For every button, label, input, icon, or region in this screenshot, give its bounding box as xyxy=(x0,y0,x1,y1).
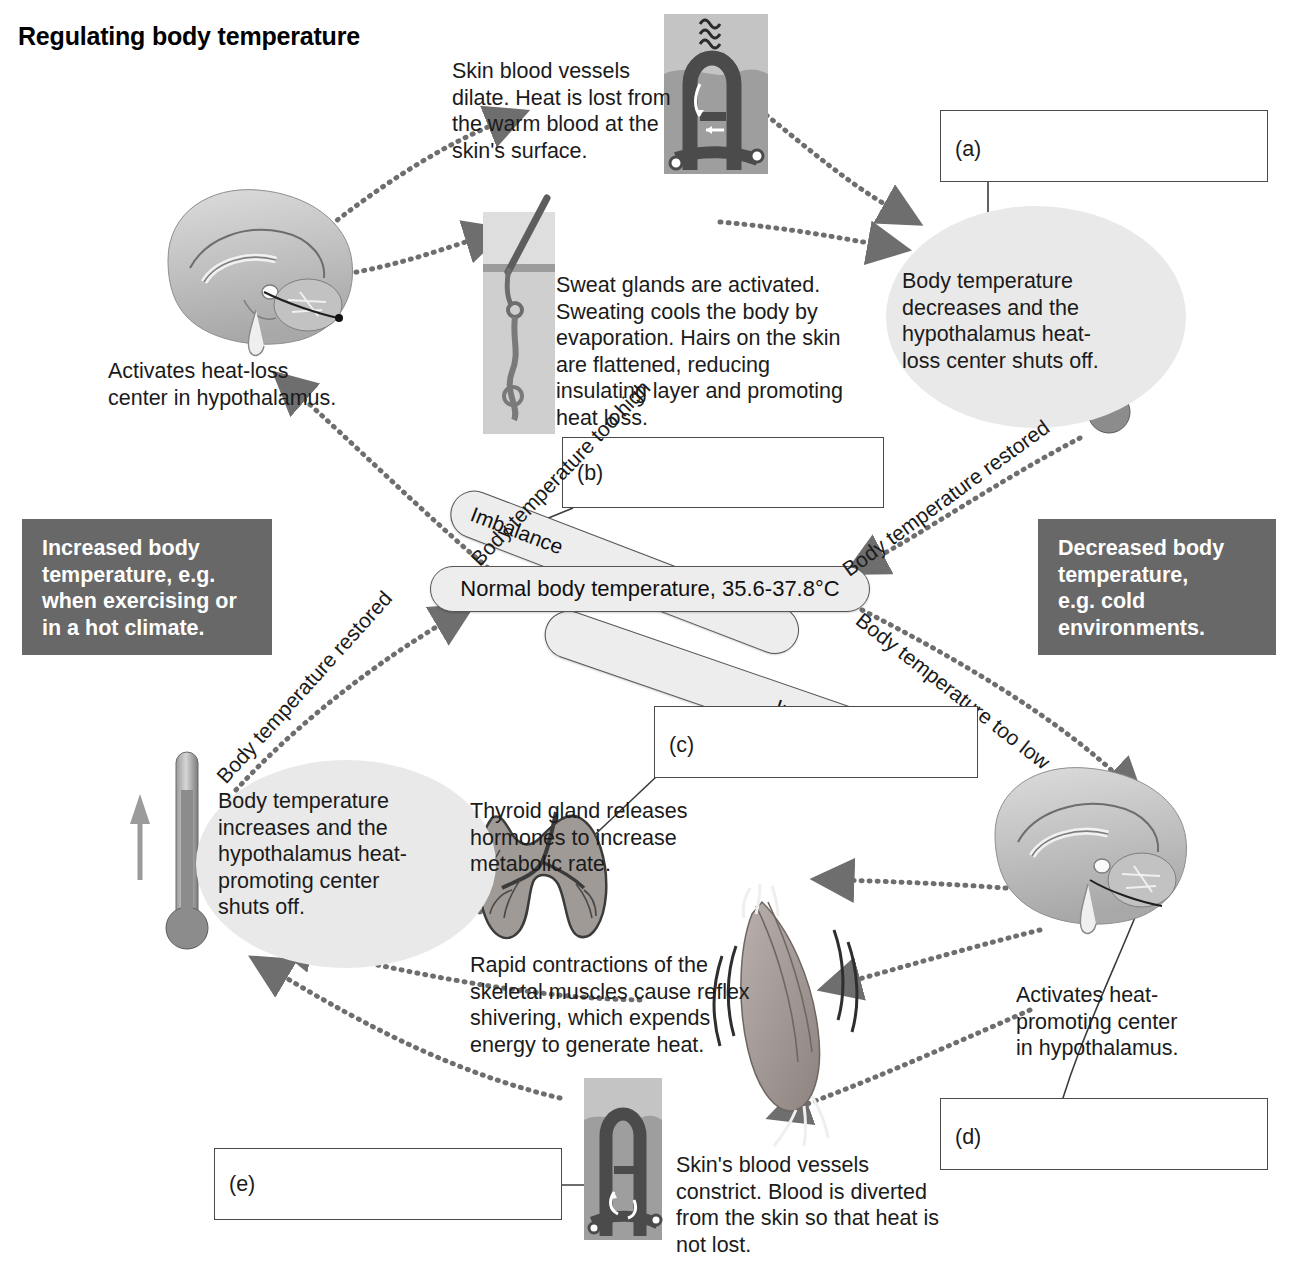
vasoconstriction-text: Skin's blood vessels constrict. Blood is… xyxy=(676,1152,976,1258)
answer-box-b[interactable]: (b) xyxy=(562,437,884,508)
diagram-canvas: Regulating body temperature Skin blood v… xyxy=(0,0,1308,1276)
answer-box-d-label: (d) xyxy=(955,1125,981,1150)
answer-box-e[interactable]: (e) xyxy=(214,1148,562,1220)
brain-sagittal-heat-loss xyxy=(168,190,353,356)
skin-vessels-dilate-text: Skin blood vessels dilate. Heat is lost … xyxy=(452,58,682,164)
answer-box-a-label: (a) xyxy=(955,137,981,162)
activates-heat-promoting-text: Activates heat- promoting center in hypo… xyxy=(1016,982,1236,1062)
answer-box-a[interactable]: (a) xyxy=(940,110,1268,182)
page-title: Regulating body temperature xyxy=(18,22,360,51)
temp-increases-text: Body temperature increases and the hypot… xyxy=(218,788,448,921)
skin-vasoconstriction-diagram xyxy=(584,1078,662,1240)
thyroid-text: Thyroid gland releases hormones to incre… xyxy=(470,798,740,878)
answer-box-c-label: (c) xyxy=(669,733,694,758)
activates-heat-loss-text: Activates heat-loss center in hypothalam… xyxy=(108,358,408,411)
brain-sagittal-heat-promoting xyxy=(995,768,1186,934)
normal-temperature-capsule: Normal body temperature, 35.6-37.8°C xyxy=(430,566,870,612)
decreased-body-temperature-box: Decreased body temperature, e.g. cold en… xyxy=(1038,519,1276,655)
shivering-text: Rapid contractions of the skeletal muscl… xyxy=(470,952,770,1058)
answer-box-c[interactable]: (c) xyxy=(654,706,978,778)
sweat-glands-text: Sweat glands are activated. Sweating coo… xyxy=(556,272,886,431)
increased-body-temperature-box: Increased body temperature, e.g. when ex… xyxy=(22,519,272,655)
answer-box-d[interactable]: (d) xyxy=(940,1098,1268,1170)
temp-decreases-text: Body temperature decreases and the hypot… xyxy=(902,268,1122,374)
normal-temperature-label: Normal body temperature, 35.6-37.8°C xyxy=(460,576,839,602)
answer-box-e-label: (e) xyxy=(229,1172,255,1197)
hair-follicle-sweat-gland-diagram xyxy=(483,198,555,434)
